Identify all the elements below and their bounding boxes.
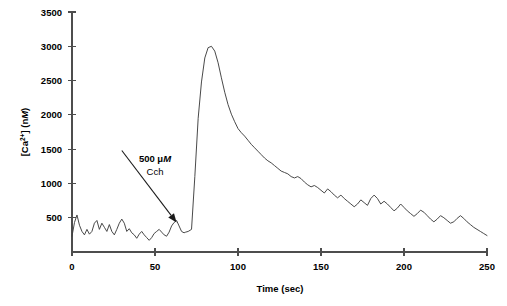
x-tick-label: 0	[69, 261, 74, 272]
x-tick-label: 50	[150, 261, 161, 272]
y-tick-label: 1000	[41, 178, 62, 189]
y-tick-label: 2500	[41, 75, 62, 86]
x-tick-label: 150	[313, 261, 329, 272]
y-axis-title: [Ca2+] (nM)	[19, 108, 31, 157]
x-tick-label: 250	[479, 261, 495, 272]
calcium-trace-chart: 500100015002000250030003500 050100150200…	[0, 0, 507, 306]
x-axis-title: Time (sec)	[257, 283, 304, 294]
x-tick-label: 100	[230, 261, 246, 272]
y-tick-label: 500	[46, 212, 62, 223]
annotation-dose-label: 500 μM	[139, 153, 172, 164]
y-tick-label: 3500	[41, 7, 62, 18]
calcium-trace-line	[72, 46, 487, 240]
y-axis-ticks: 500100015002000250030003500	[41, 7, 76, 224]
y-tick-label: 1500	[41, 144, 62, 155]
annotation-agonist-label: Cch	[147, 166, 164, 177]
agonist-annotation: 500 μM Cch	[122, 151, 177, 223]
x-tick-label: 200	[396, 261, 412, 272]
y-tick-label: 3000	[41, 41, 62, 52]
y-tick-label: 2000	[41, 109, 62, 120]
annotation-arrowhead	[168, 213, 176, 222]
figure-container: 500100015002000250030003500 050100150200…	[0, 0, 507, 306]
